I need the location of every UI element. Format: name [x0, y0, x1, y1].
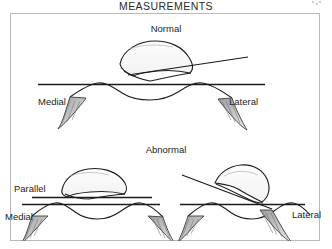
medial-retinaculum-abnormal-right	[178, 216, 204, 241]
label-lateral-normal: Lateral	[229, 96, 258, 107]
scan-artifact-speckle	[311, 1, 323, 6]
label-lateral-abnormal: Lateral	[292, 209, 321, 220]
figure-root: MEASUREMENTS	[0, 0, 332, 249]
femoral-condyles-normal	[70, 83, 232, 100]
label-medial-normal: Medial	[38, 96, 66, 107]
figure-title: MEASUREMENTS	[0, 0, 332, 12]
abnormal-right-drawing	[178, 165, 310, 241]
lateral-retinaculum-abnormal-right	[260, 210, 292, 241]
panel-heading-normal: Normal	[0, 23, 332, 34]
femoral-condyles-abnormal-left	[32, 203, 163, 219]
label-medial-abnormal: Medial	[5, 211, 33, 222]
label-parallel-annotation: Parallel	[14, 183, 46, 194]
lateral-retinaculum-abnormal-left	[148, 216, 175, 241]
panel-heading-abnormal: Abnormal	[0, 144, 332, 155]
anatomy-illustration	[10, 13, 320, 241]
abnormal-left-drawing	[21, 168, 175, 241]
normal-panel-drawing	[38, 41, 265, 130]
